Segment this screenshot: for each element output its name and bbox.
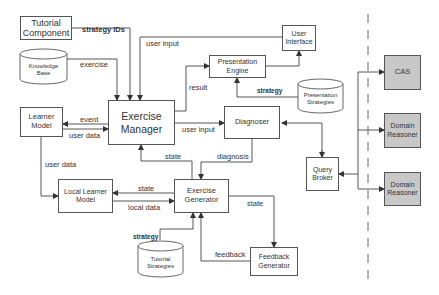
presentation-engine-label: Presentation Engine	[210, 58, 265, 74]
exercise-manager-label: Exercise Manager	[109, 110, 174, 134]
edge-label-user-data-lm: user data	[69, 131, 100, 140]
edge-label-diagnosis: diagnosis	[217, 152, 249, 161]
edge-label-strategy-tutorial: strategy	[133, 233, 158, 240]
learner-model-box[interactable]: Learner Model	[20, 107, 63, 137]
architecture-diagram: Tutorial Component Knowledge Base Learne…	[0, 0, 439, 295]
user-interface-box[interactable]: User Interface	[282, 25, 316, 51]
edge-label-strategy-presentation: strategy	[257, 87, 282, 94]
local-learner-model-box[interactable]: Local Learner Model	[58, 179, 113, 213]
edge-label-user-input-top: user input	[146, 39, 179, 48]
edge-label-state-feedback: state	[247, 199, 263, 208]
edge-label-feedback: feedback	[215, 250, 245, 259]
presentation-strategies-label[interactable]: Presentation Strategies	[299, 90, 342, 108]
exercise-manager-box[interactable]: Exercise Manager	[108, 100, 175, 145]
diagnoser-label: Diagnoser	[235, 118, 269, 127]
domain-reasoner-label-2: Domain Reasoner	[385, 181, 420, 197]
diagnoser-box[interactable]: Diagnoser	[224, 106, 280, 139]
feedback-generator-label: Feedback Generator	[251, 253, 297, 269]
tutorial-component-box[interactable]: Tutorial Component	[20, 16, 72, 40]
cas-box[interactable]: CAS	[384, 55, 421, 90]
feedback-generator-box[interactable]: Feedback Generator	[250, 247, 298, 276]
cas-label: CAS	[395, 68, 410, 77]
edge-label-strategy-ids: strategy IDs	[82, 25, 125, 34]
tutorial-component-label: Tutorial Component	[21, 18, 71, 39]
domain-reasoner-label-1: Domain Reasoner	[385, 122, 420, 138]
edge-label-result: result	[189, 83, 207, 92]
edge-label-exercise: exercise	[80, 60, 108, 69]
query-broker-box[interactable]: Query Broker	[306, 157, 339, 191]
domain-reasoner-box-1[interactable]: Domain Reasoner	[384, 113, 421, 148]
domain-reasoner-box-2[interactable]: Domain Reasoner	[384, 172, 421, 206]
exercise-generator-label: Exercise Generator	[175, 187, 228, 204]
tutorial-strategies-label[interactable]: Tutorial Strategies	[140, 253, 181, 273]
edge-label-state-local: state	[138, 184, 154, 193]
edge-label-event: event	[80, 115, 98, 124]
edge-label-user-input-diag: user input	[182, 125, 215, 134]
knowledge-base-label[interactable]: Knowledge Base	[22, 60, 65, 80]
edge-label-user-data-down: user data	[45, 160, 76, 169]
learner-model-label: Learner Model	[21, 113, 62, 130]
exercise-generator-box[interactable]: Exercise Generator	[174, 179, 229, 213]
edge-label-state-up: state	[165, 152, 181, 161]
local-learner-model-label: Local Learner Model	[59, 188, 112, 204]
query-broker-label: Query Broker	[307, 166, 338, 182]
user-interface-label: User Interface	[283, 30, 315, 46]
edge-label-local-data: local data	[128, 203, 160, 212]
presentation-engine-box[interactable]: Presentation Engine	[209, 55, 266, 78]
